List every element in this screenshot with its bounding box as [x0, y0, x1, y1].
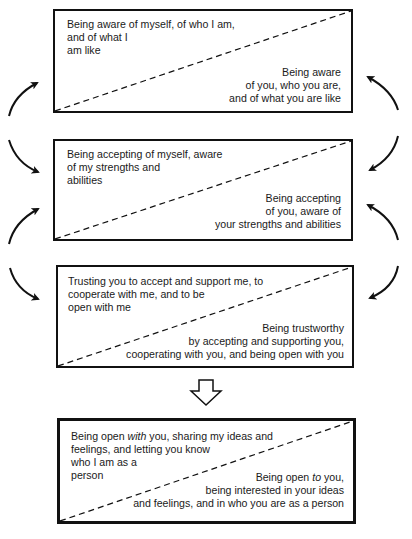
- curved-arrow-down-icon: [10, 268, 38, 299]
- box-trust: Trusting you to accept and support me, t…: [56, 265, 354, 368]
- curved-arrow-down-icon: [370, 136, 398, 170]
- trustworthy-text: Being trustworthy by accepting and suppo…: [126, 322, 344, 361]
- curved-arrow-down-icon: [370, 266, 398, 298]
- other-acceptance-text: Being accepting of you, aware of your st…: [215, 192, 341, 231]
- curved-arrow-up-icon: [368, 77, 398, 110]
- curved-arrow-up-icon: [9, 83, 37, 116]
- self-acceptance-text: Being accepting of myself, aware of my s…: [67, 148, 222, 187]
- box-acceptance: Being accepting of myself, aware of my s…: [53, 139, 353, 241]
- self-awareness-text: Being aware of myself, of who I am, and …: [67, 18, 235, 57]
- curved-arrow-up-icon: [368, 205, 398, 240]
- hollow-down-arrow-icon: [188, 379, 224, 407]
- curved-arrow-down-icon: [9, 140, 38, 172]
- open-to-text: Being open to you, being interested in y…: [133, 471, 344, 510]
- curved-arrow-up-icon: [9, 209, 38, 244]
- other-awareness-text: Being aware of you, who you are, and of …: [229, 66, 341, 105]
- box-openness: Being open with you, sharing my ideas an…: [57, 418, 356, 524]
- trusting-text: Trusting you to accept and support me, t…: [68, 275, 263, 314]
- box-awareness: Being aware of myself, of who I am, and …: [53, 9, 353, 113]
